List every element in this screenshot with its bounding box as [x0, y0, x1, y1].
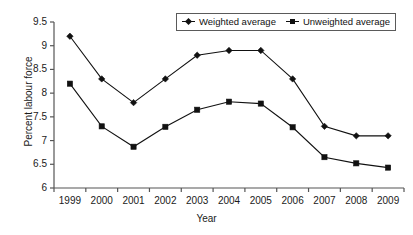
chart-legend: Weighted average Unweighted average	[176, 13, 396, 31]
data-point-marker	[385, 133, 391, 139]
data-point-marker	[385, 165, 390, 170]
plot-area	[0, 0, 413, 235]
data-point-marker	[321, 123, 327, 129]
data-point-marker	[226, 47, 232, 53]
data-point-marker	[163, 124, 168, 129]
data-point-marker	[258, 101, 263, 106]
data-point-marker	[290, 125, 295, 130]
data-point-marker	[226, 99, 231, 104]
data-point-marker	[353, 133, 359, 139]
data-point-marker	[354, 161, 359, 166]
square-marker-icon	[286, 18, 299, 26]
chart-container: Percent labour force Year 9.598.587.576.…	[0, 0, 413, 235]
data-point-marker	[99, 124, 104, 129]
data-point-marker	[131, 144, 136, 149]
x-axis-ticks	[54, 188, 404, 192]
diamond-marker-icon	[182, 18, 195, 26]
legend-item-weighted-average: Weighted average	[182, 16, 276, 27]
data-point-marker	[322, 155, 327, 160]
data-point-marker	[67, 81, 72, 86]
data-point-marker	[195, 107, 200, 112]
legend-item-unweighted-average: Unweighted average	[286, 16, 390, 27]
legend-label-unweighted-average: Unweighted average	[303, 16, 390, 27]
data-series-layer	[67, 33, 392, 170]
series-line-unweighted-average	[70, 84, 388, 168]
legend-label-weighted-average: Weighted average	[199, 16, 276, 27]
